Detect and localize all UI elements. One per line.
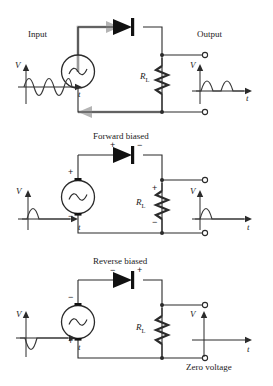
panel-overview: Input Output xyxy=(0,0,273,128)
forward-output-v-label: V xyxy=(190,187,196,196)
forward-output-plot xyxy=(186,186,273,242)
overview-output-plot xyxy=(186,60,273,116)
forward-load-top-sign: + xyxy=(152,184,157,193)
overview-input-plot xyxy=(8,60,98,116)
reverse-input-t-label: t xyxy=(78,343,81,352)
reverse-output-v-label: V xyxy=(190,310,196,319)
forward-input-t-label: t xyxy=(78,223,81,232)
forward-diode-cathode-sign: − xyxy=(137,141,142,150)
reverse-source-top-sign: − xyxy=(68,293,73,302)
diode-icon xyxy=(113,146,134,164)
overview-input-t-label: t xyxy=(78,90,81,99)
resistor-label-forward: RL xyxy=(136,198,145,209)
forward-output-t-label: t xyxy=(247,223,250,232)
reverse-output-t-label: t xyxy=(247,345,250,354)
overview-output-t-label: t xyxy=(246,94,249,103)
overview-output-v-label: V xyxy=(190,61,196,70)
diode-icon xyxy=(113,18,134,36)
load-resistor-icon xyxy=(156,308,168,358)
reverse-input-v-label: V xyxy=(16,310,22,319)
diode-icon xyxy=(113,271,134,289)
panel-forward-biased: Forward biased + − xyxy=(0,128,273,253)
forward-input-v-label: V xyxy=(16,187,22,196)
load-resistor-icon xyxy=(156,183,168,233)
forward-diode-anode-sign: + xyxy=(110,141,115,150)
reverse-diode-anode-sign: − xyxy=(110,266,115,275)
forward-source-top-sign: + xyxy=(68,168,73,177)
resistor-label-overview: RL xyxy=(140,72,149,83)
overview-input-v-label: V xyxy=(15,61,21,70)
resistor-label-reverse: RL xyxy=(136,323,145,334)
reverse-output-plot xyxy=(186,309,273,369)
forward-load-bottom-sign: − xyxy=(152,218,157,227)
reverse-diode-cathode-sign: + xyxy=(137,266,142,275)
zero-voltage-note: Zero voltage xyxy=(186,363,232,372)
panel-reverse-biased: Reverse biased − + xyxy=(0,253,273,386)
